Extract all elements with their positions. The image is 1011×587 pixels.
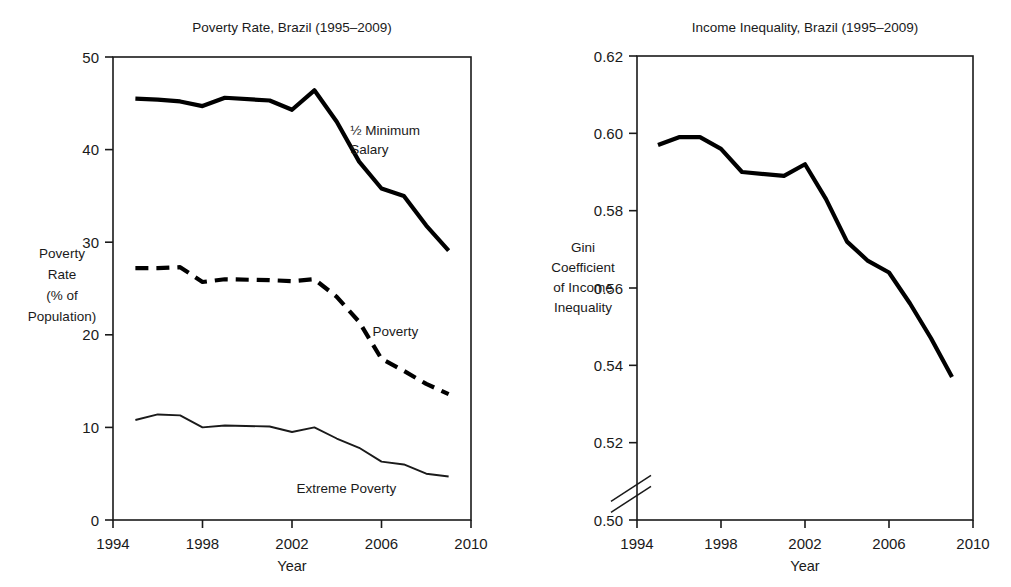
y-tick-label: 30 xyxy=(82,234,99,251)
series-line-0 xyxy=(135,90,448,250)
x-tick-label: 2010 xyxy=(956,535,989,552)
y-axis-title-line: Population) xyxy=(28,309,96,324)
axis-break-slash xyxy=(611,475,651,501)
data-series-group xyxy=(135,90,448,476)
y-axis-title: GiniCoefficientof IncomeInequality xyxy=(551,240,615,315)
poverty-rate-chart-svg: Poverty Rate, Brazil (1995–2009) Poverty… xyxy=(0,0,505,587)
y-tick-label: 0.52 xyxy=(594,434,623,451)
series-annotations: ½ MinimumSalaryPovertyExtreme Poverty xyxy=(296,123,419,496)
x-axis-ticks: 19941998200220062010 xyxy=(620,520,989,552)
series-line-2 xyxy=(135,414,448,476)
chart-title: Poverty Rate, Brazil (1995–2009) xyxy=(192,20,392,35)
series-label-0: Salary xyxy=(350,142,389,157)
y-axis-title-line: Rate xyxy=(48,267,77,282)
series-line-0 xyxy=(658,137,952,377)
y-tick-label: 0.54 xyxy=(594,357,623,374)
y-tick-label: 0.60 xyxy=(594,125,623,142)
series-label-0: ½ Minimum xyxy=(350,123,420,138)
plot-frame xyxy=(637,56,973,520)
x-tick-label: 1998 xyxy=(186,535,219,552)
y-tick-label: 50 xyxy=(82,49,99,66)
series-label-1: Poverty xyxy=(373,324,419,339)
data-series-group xyxy=(658,137,952,377)
chart-title: Income Inequality, Brazil (1995–2009) xyxy=(692,20,918,35)
chart-panel-income-inequality: Income Inequality, Brazil (1995–2009) Gi… xyxy=(505,0,1011,587)
series-label-2: Extreme Poverty xyxy=(296,481,396,496)
y-tick-label: 0.62 xyxy=(594,48,623,65)
x-axis-ticks: 19941998200220062010 xyxy=(96,520,487,552)
x-tick-label: 2006 xyxy=(872,535,905,552)
x-tick-label: 1994 xyxy=(620,535,653,552)
x-tick-label: 2002 xyxy=(275,535,308,552)
x-tick-label: 1998 xyxy=(704,535,737,552)
x-tick-label: 2006 xyxy=(365,535,398,552)
y-axis-title-line: Coefficient xyxy=(551,260,615,275)
y-axis-ticks: 01020304050 xyxy=(82,49,113,529)
x-tick-label: 2002 xyxy=(788,535,821,552)
plot-area-border xyxy=(637,56,973,520)
y-axis-title-line: Inequality xyxy=(554,300,612,315)
y-tick-label: 10 xyxy=(82,419,99,436)
y-tick-label: 20 xyxy=(82,326,99,343)
x-axis-title: Year xyxy=(790,558,819,574)
x-axis-title: Year xyxy=(277,558,306,574)
x-tick-label: 1994 xyxy=(96,535,129,552)
y-tick-label: 0 xyxy=(91,512,99,529)
axis-break-slash xyxy=(611,486,651,512)
figure-container: Poverty Rate, Brazil (1995–2009) Poverty… xyxy=(0,0,1011,587)
income-inequality-chart-svg: Income Inequality, Brazil (1995–2009) Gi… xyxy=(505,0,1011,587)
x-tick-label: 2010 xyxy=(454,535,487,552)
chart-panel-poverty-rate: Poverty Rate, Brazil (1995–2009) Poverty… xyxy=(0,0,505,587)
y-axis-title-line: (% of xyxy=(46,288,78,303)
y-tick-label: 0.56 xyxy=(594,280,623,297)
y-axis-title: PovertyRate(% ofPopulation) xyxy=(28,246,96,324)
y-axis-title-line: Poverty xyxy=(39,246,85,261)
y-axis-ticks: 0.500.520.540.560.580.600.62 xyxy=(594,48,637,529)
axis-break-mark xyxy=(611,475,651,512)
y-axis-title-line: Gini xyxy=(571,240,595,255)
y-tick-label: 0.50 xyxy=(594,512,623,529)
y-tick-label: 0.58 xyxy=(594,202,623,219)
y-tick-label: 40 xyxy=(82,141,99,158)
